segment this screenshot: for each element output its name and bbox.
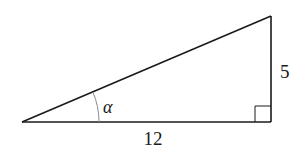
base-label: 12: [144, 128, 163, 149]
triangle-diagram: α 12 5: [0, 0, 302, 153]
height-label: 5: [280, 61, 290, 82]
right-angle-marker: [255, 106, 271, 122]
angle-arc: [93, 92, 99, 122]
angle-label: α: [103, 97, 113, 117]
hypotenuse: [22, 16, 271, 122]
